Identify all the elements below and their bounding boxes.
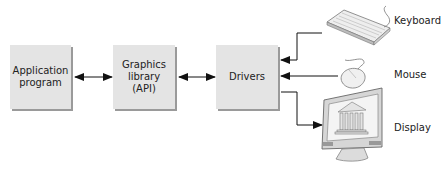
display-label: Display	[394, 122, 431, 133]
box-label-line: (API)	[122, 83, 166, 95]
box-label-line: Drivers	[229, 71, 265, 83]
drivers-box: Drivers	[216, 45, 278, 109]
monitor-icon	[322, 88, 382, 161]
keyboard-icon	[327, 6, 390, 45]
arrow-keyboard-drivers	[281, 33, 322, 60]
box-label-line: Graphics	[122, 59, 166, 71]
graphics-library-box: Graphics library (API)	[113, 45, 175, 109]
mouse-label: Mouse	[394, 69, 426, 80]
box-label-line: Application	[13, 65, 69, 77]
application-program-box: Application program	[10, 45, 71, 109]
keyboard-label: Keyboard	[394, 15, 441, 26]
box-label-line: program	[13, 77, 69, 89]
arrow-drivers-display	[281, 92, 322, 125]
box-label-line: library	[122, 71, 166, 83]
mouse-icon	[341, 59, 365, 88]
